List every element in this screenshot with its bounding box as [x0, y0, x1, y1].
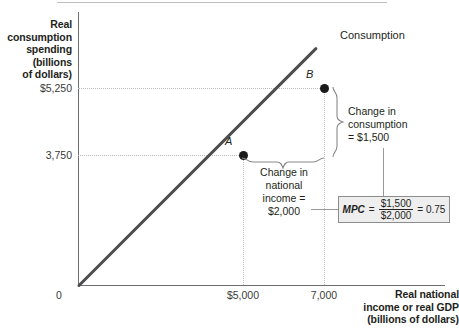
x-axis-title-line-3: (billions of dollars) — [315, 313, 459, 326]
gridline-y-3750 — [78, 155, 245, 156]
y-axis-title-line-3: spending — [0, 43, 72, 56]
data-point-a-label: A — [225, 135, 232, 147]
y-axis-title-line-2: consumption — [0, 31, 72, 44]
x-axis-title-line-2: income or real GDP — [315, 301, 459, 314]
data-point-b-label: B — [306, 68, 313, 80]
mpc-denominator: $2,000 — [379, 209, 414, 221]
annotation-change-in-consumption-line-2: consumption — [348, 118, 440, 131]
data-point-b — [320, 84, 329, 93]
y-axis-title: Real consumption spending (billions of d… — [0, 18, 72, 81]
y-axis-title-line-1: Real — [0, 18, 72, 31]
connector-income-to-mpc — [311, 209, 338, 210]
gridline-y-5250 — [78, 88, 326, 89]
annotation-change-in-national-income-line-2: national — [243, 179, 325, 192]
page-top-rule — [57, 2, 387, 3]
x-axis-line — [78, 285, 445, 286]
y-axis-title-line-4: (billions — [0, 56, 72, 69]
mpc-formula-box: MPC = $1,500 $2,000 = 0.75 — [338, 196, 450, 223]
y-tick-label-5250: $5,250 — [10, 82, 72, 94]
y-axis-line — [78, 12, 79, 286]
annotation-change-in-consumption-line-1: Change in — [348, 105, 440, 118]
annotation-change-in-consumption: Change in consumption = $1,500 — [348, 105, 440, 144]
mpc-numerator: $1,500 — [379, 199, 414, 210]
annotation-change-in-consumption-line-3: = $1,500 — [348, 131, 440, 144]
mpc-label: MPC — [343, 204, 365, 215]
annotation-change-in-national-income-line-1: Change in — [243, 166, 325, 179]
y-axis-title-line-5: of dollars) — [0, 68, 72, 81]
origin-label: 0 — [56, 289, 62, 301]
mpc-result: = 0.75 — [417, 204, 445, 215]
mpc-equals-sign: = — [369, 204, 375, 215]
mpc-fraction: $1,500 $2,000 — [379, 199, 414, 221]
x-tick-label-7000: 7,000 — [289, 289, 359, 301]
consumption-line-label: Consumption — [340, 29, 405, 41]
annotation-change-in-national-income-line-4: $2,000 — [243, 205, 325, 218]
annotation-change-in-national-income-line-3: income = — [243, 192, 325, 205]
annotation-change-in-national-income: Change in national income = $2,000 — [243, 166, 325, 218]
y-tick-label-3750: 3,750 — [10, 149, 72, 161]
connector-consumption-to-mpc — [383, 148, 384, 196]
consumption-function-chart: Real consumption spending (billions of d… — [0, 0, 459, 332]
brace-change-in-consumption — [330, 86, 346, 158]
x-tick-label-5000: $5,000 — [208, 289, 278, 301]
